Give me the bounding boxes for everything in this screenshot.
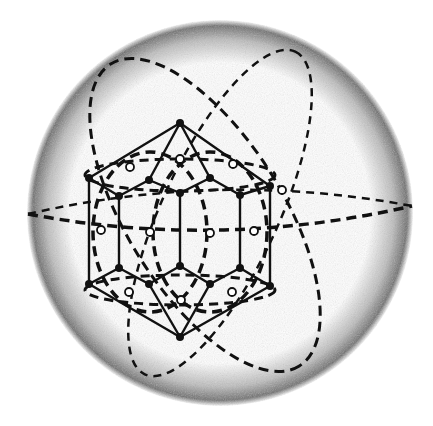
open-vertex <box>146 228 154 236</box>
vertex <box>236 191 244 199</box>
open-vertex <box>250 227 258 235</box>
vertex <box>145 176 153 184</box>
open-vertex <box>278 186 286 194</box>
vertex <box>85 280 93 288</box>
vertex <box>176 333 184 341</box>
open-vertex <box>229 160 237 168</box>
open-vertex <box>176 155 184 163</box>
sphere-polyhedron-diagram: Polyhedron (truncated-style solid with h… <box>0 0 433 426</box>
open-vertex <box>97 226 105 234</box>
open-vertex <box>126 163 134 171</box>
vertex <box>115 264 123 272</box>
vertex <box>206 280 214 288</box>
vertex <box>85 174 93 182</box>
vertex <box>266 282 274 290</box>
vertex <box>176 262 184 270</box>
open-vertex <box>125 288 133 296</box>
open-vertex <box>228 288 236 296</box>
open-vertex <box>177 296 185 304</box>
diagram-canvas <box>0 0 433 426</box>
vertex <box>236 264 244 272</box>
vertex <box>145 280 153 288</box>
vertex <box>266 182 274 190</box>
open-vertex <box>206 229 214 237</box>
vertex <box>115 192 123 200</box>
vertex <box>176 189 184 197</box>
vertex <box>176 119 184 127</box>
vertex <box>206 174 214 182</box>
